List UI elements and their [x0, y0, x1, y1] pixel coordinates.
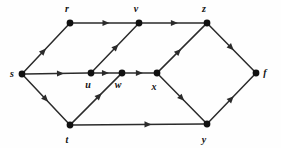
- node-label-w: w: [115, 79, 122, 90]
- graph-node-r[interactable]: [67, 20, 74, 27]
- edge-arrowhead: [136, 70, 143, 76]
- node-label-s: s: [9, 68, 14, 79]
- edge-line: [159, 25, 204, 70]
- edge-layer: [24, 20, 253, 128]
- graph-figure: srtuwvxzyf: [0, 0, 281, 148]
- graph-node-u[interactable]: [88, 70, 95, 77]
- graph-canvas: srtuwvxzyf: [0, 0, 281, 148]
- edge-line: [72, 75, 119, 122]
- node-label-z: z: [201, 3, 206, 14]
- node-label-v: v: [134, 3, 139, 14]
- edge-arrowhead: [57, 70, 64, 76]
- graph-edge-x-y: [159, 75, 204, 121]
- graph-edge-s-r: [24, 25, 67, 71]
- graph-edge-s-u: [25, 70, 87, 76]
- graph-edge-w-x: [125, 70, 153, 76]
- graph-node-s[interactable]: [19, 71, 26, 78]
- graph-node-t[interactable]: [67, 122, 74, 129]
- node-label-u: u: [85, 79, 91, 90]
- edge-line: [25, 73, 87, 74]
- graph-node-x[interactable]: [154, 70, 161, 77]
- node-label-r: r: [65, 3, 69, 14]
- graph-edge-y-f: [209, 75, 253, 121]
- graph-edge-r-v: [73, 20, 135, 26]
- graph-node-z[interactable]: [204, 20, 211, 27]
- edge-arrowhead: [102, 20, 109, 26]
- graph-edge-z-f: [209, 25, 253, 70]
- graph-edge-s-t: [24, 76, 67, 122]
- graph-edge-t-y: [73, 121, 203, 127]
- graph-node-f[interactable]: [253, 70, 260, 77]
- graph-edge-t-w: [72, 75, 119, 122]
- graph-edge-u-w: [94, 70, 118, 76]
- edge-line: [73, 124, 203, 125]
- node-label-x: x: [151, 81, 157, 92]
- node-label-t: t: [66, 134, 70, 145]
- graph-node-w[interactable]: [119, 70, 126, 77]
- node-label-y: y: [201, 134, 207, 145]
- graph-edge-u-v: [93, 25, 136, 70]
- graph-node-y[interactable]: [204, 121, 211, 128]
- graph-node-v[interactable]: [136, 20, 143, 27]
- edge-arrowhead: [171, 20, 178, 26]
- edge-arrowhead: [102, 70, 109, 76]
- graph-edge-x-z: [159, 25, 204, 70]
- edge-arrowhead: [144, 121, 151, 127]
- node-label-f: f: [263, 67, 268, 78]
- graph-edge-v-z: [142, 20, 203, 26]
